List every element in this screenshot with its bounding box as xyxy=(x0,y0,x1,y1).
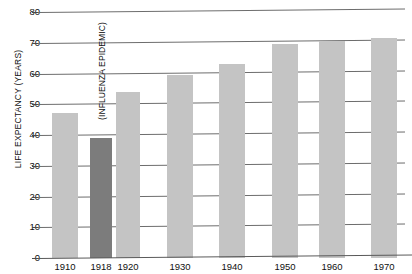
influenza-epidemic-annotation: (INFLUENZA EPIDEMIC) xyxy=(97,5,107,137)
x-tick-label-1950: 1950 xyxy=(269,262,301,272)
bar-1960 xyxy=(319,41,345,258)
bar-1918 xyxy=(90,138,112,258)
y-axis-tick-labels: 80 70 60 50 40 30 20 10 0 xyxy=(8,0,40,274)
x-tick-label-1970: 1970 xyxy=(368,262,400,272)
x-tick-label-1920: 1920 xyxy=(112,262,144,272)
x-tick-label-1930: 1930 xyxy=(164,262,196,272)
bar-1970 xyxy=(371,38,397,258)
plot-area: 19101918192019301940195019601970 (INFLUE… xyxy=(44,0,411,274)
x-tick-label-1910: 1910 xyxy=(49,262,81,272)
bar-1920 xyxy=(116,92,140,258)
x-tick-label-1940: 1940 xyxy=(216,262,248,272)
x-tick-label-1960: 1960 xyxy=(316,262,348,272)
bar-1950 xyxy=(272,44,298,258)
bar-1910 xyxy=(52,113,78,258)
bar-1940 xyxy=(219,64,245,258)
bar-1930 xyxy=(167,75,193,258)
